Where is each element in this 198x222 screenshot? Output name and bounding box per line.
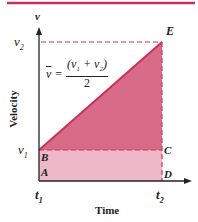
num-part2: + v (80, 57, 99, 71)
v2-subscript: 2 (20, 43, 24, 52)
t1-subscript: 1 (39, 196, 43, 205)
numerator: (v1 + v2) (66, 58, 108, 77)
y-axis-symbol: v (35, 10, 40, 22)
point-c-label: C (164, 144, 171, 156)
v1-tick-label: v1 (18, 142, 28, 160)
v-bar: v (46, 67, 51, 82)
point-d-label: D (164, 168, 172, 180)
t2-tick-label: t2 (156, 187, 164, 205)
average-velocity-formula: v = (v1 + v2) 2 (46, 58, 108, 90)
num-close: ) (103, 57, 107, 71)
t1-tick-label: t1 (35, 187, 43, 205)
v2-tick-label: v2 (14, 34, 24, 52)
point-b-label: B (41, 151, 48, 163)
equals-sign: = (55, 67, 62, 82)
t2-subscript: 2 (160, 196, 164, 205)
fraction: (v1 + v2) 2 (66, 58, 108, 90)
x-axis-label: Time (95, 204, 119, 216)
point-e-label: E (166, 24, 174, 39)
y-axis-label: Velocity (7, 84, 19, 134)
denominator: 2 (84, 77, 90, 90)
point-a-label: A (41, 166, 48, 178)
v1-subscript: 1 (24, 151, 28, 160)
